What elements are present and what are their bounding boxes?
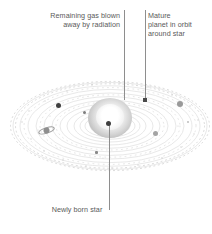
planet-small-upper [83,111,86,114]
planet-dark-left [56,103,61,108]
leader-line-mature-planet [145,10,146,100]
annotation-newly-born-star: Newly born star [32,205,122,214]
astronomy-diagram-figure: Remaining gas blown away by radiation Ma… [0,0,212,234]
leader-line-newly-born-star [109,124,110,210]
planet-dark-leader [143,98,147,102]
planet-small-lower [95,151,98,154]
planet-gray-lower [153,131,158,136]
planet-ringed-left [38,122,55,133]
annotation-mature-planet: Mature planet in orbit around star [148,11,208,39]
star-leader-anchor-dot [106,121,111,126]
planet-speck-right [187,121,189,123]
leader-line-remaining-gas [124,10,125,100]
planet-gray-right [177,101,183,107]
annotation-remaining-gas: Remaining gas blown away by radiation [28,11,120,29]
central-star-core [96,104,124,130]
